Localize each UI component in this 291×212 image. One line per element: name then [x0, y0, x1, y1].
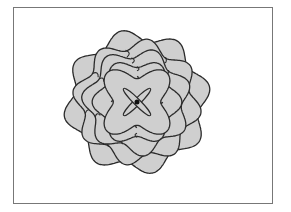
- flower-center-dot: [135, 100, 140, 105]
- flower-diagram: [0, 0, 291, 212]
